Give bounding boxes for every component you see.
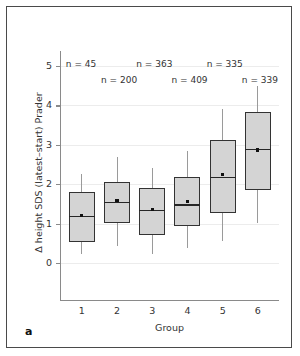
- mean-marker: [186, 200, 189, 203]
- y-tick-label: 4: [37, 99, 52, 110]
- median-line: [210, 177, 236, 179]
- x-axis-title: Group: [60, 322, 279, 333]
- x-axis-line: [60, 300, 279, 301]
- y-tick-label: 2: [37, 178, 52, 189]
- n-annotation: n = 339: [242, 75, 278, 85]
- mean-marker: [256, 148, 259, 151]
- x-tick-label: 4: [174, 305, 200, 316]
- y-axis-line: [60, 51, 61, 301]
- mean-marker: [151, 208, 154, 211]
- n-annotation: n = 335: [207, 59, 243, 69]
- mean-marker: [115, 199, 118, 202]
- n-annotation: n = 363: [136, 59, 172, 69]
- y-tick-mark: [56, 66, 60, 67]
- n-annotation: n = 200: [101, 75, 137, 85]
- y-tick-mark: [56, 184, 60, 185]
- y-tick-mark: [56, 145, 60, 146]
- panel-label: a: [25, 325, 32, 338]
- y-tick-mark: [56, 224, 60, 225]
- n-annotation: n = 409: [171, 75, 207, 85]
- x-tick-label: 1: [69, 305, 95, 316]
- y-tick-label: 0: [37, 257, 52, 268]
- y-tick-mark: [56, 263, 60, 264]
- x-tick-label: 2: [104, 305, 130, 316]
- y-tick-mark: [56, 105, 60, 106]
- y-tick-label: 5: [37, 60, 52, 71]
- figure-panel: Δ height SDS (latest–start) Prader Group…: [6, 6, 292, 348]
- x-tick-label: 5: [210, 305, 236, 316]
- x-tick-label: 3: [139, 305, 165, 316]
- mean-marker: [221, 173, 224, 176]
- n-annotation: n = 45: [66, 59, 96, 69]
- mean-marker: [80, 214, 83, 217]
- y-tick-label: 1: [37, 218, 52, 229]
- median-line: [174, 204, 200, 206]
- y-tick-label: 3: [37, 139, 52, 150]
- x-tick-label: 6: [245, 305, 271, 316]
